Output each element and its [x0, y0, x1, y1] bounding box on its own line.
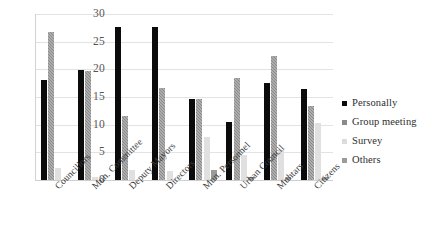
- bar-group: [185, 14, 222, 180]
- legend-label: Personally: [352, 98, 397, 109]
- legend-item[interactable]: Survey: [342, 132, 442, 151]
- x-axis-category-labels: CouncillorsMun. CommitteeDeputy MayorsDi…: [36, 182, 333, 246]
- x-label-slot: Muhtars: [259, 182, 296, 246]
- bar-group: [296, 14, 333, 180]
- legend-label: Others: [352, 155, 381, 166]
- chart-legend: PersonallyGroup meetingSurveyOthers: [342, 94, 442, 170]
- legend-swatch-icon: [342, 101, 347, 106]
- x-label-slot: Councillors: [36, 182, 73, 246]
- bar: [48, 32, 54, 180]
- bar-chart: 302520151050 CouncillorsMun. CommitteeDe…: [0, 0, 445, 247]
- legend-swatch-icon: [342, 139, 347, 144]
- legend-label: Group meeting: [352, 117, 417, 128]
- bar: [308, 106, 314, 180]
- x-label-slot: Deputy Mayors: [110, 182, 147, 246]
- bar: [315, 123, 321, 180]
- legend-item[interactable]: Others: [342, 151, 442, 170]
- x-label-slot: Directors: [147, 182, 184, 246]
- legend-swatch-icon: [342, 120, 347, 125]
- bar-group: [36, 14, 73, 180]
- bar: [196, 99, 202, 180]
- x-label-slot: Mun. Committee: [73, 182, 110, 246]
- bar: [41, 80, 47, 180]
- x-label-slot: Mun. Personnel: [185, 182, 222, 246]
- legend-item[interactable]: Group meeting: [342, 113, 442, 132]
- x-label-slot: Urban Council: [222, 182, 259, 246]
- bar: [159, 88, 165, 180]
- legend-label: Survey: [352, 136, 382, 147]
- legend-swatch-icon: [342, 158, 347, 163]
- legend-item[interactable]: Personally: [342, 94, 442, 113]
- x-label-slot: Citizens: [296, 182, 333, 246]
